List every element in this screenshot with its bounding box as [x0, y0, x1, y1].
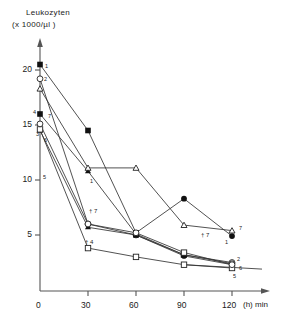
ytick-label-5: 5	[12, 229, 32, 239]
series-lines-group	[40, 65, 262, 270]
series-label-7-end: 7	[239, 225, 242, 231]
ytick-label-20: 20	[12, 64, 32, 74]
xtick-label-30: 30	[81, 300, 90, 310]
series-label-2-end: 2	[237, 256, 240, 262]
series-label-5-end: 5	[233, 273, 236, 279]
series-line-5	[40, 129, 262, 269]
ytick-label-10: 10	[12, 174, 32, 184]
series-label-6-end: 6	[239, 265, 242, 271]
series-label-4-start: 4	[33, 109, 36, 115]
series-label-5-start: 5	[43, 174, 46, 180]
series-label-6-start: 6	[44, 137, 47, 143]
series-label-7-start: 7	[48, 113, 51, 119]
xtick-label-60: 60	[129, 300, 138, 310]
ytick-label-15: 15	[12, 119, 32, 129]
series-label-2-start: 2	[44, 76, 47, 82]
series-label-3-start: 3	[36, 131, 39, 137]
plot-canvas	[0, 0, 283, 336]
xtick-label-90: 90	[177, 300, 186, 310]
xaxis-unit-label: (h) min	[243, 300, 268, 309]
series-line-6	[40, 124, 232, 265]
annotation-dagger-7-right: † 7	[201, 232, 209, 238]
series-line-7	[40, 89, 232, 231]
series-line-3	[40, 131, 232, 265]
series-label-1-end: 1	[225, 239, 228, 245]
series-label-1-mid: 1	[90, 178, 93, 184]
axes-group	[35, 38, 270, 296]
series-label-1-start: 1	[45, 63, 48, 69]
leukocyte-decay-chart: Leukozyten (x 1000/µl )	[0, 0, 283, 336]
annotation-dagger-4: † 4	[85, 239, 93, 245]
xtick-label-0: 0	[36, 300, 41, 310]
series-line-1	[40, 65, 232, 237]
series-markers-group	[37, 62, 235, 271]
series-line-5b	[184, 265, 232, 268]
xtick-label-120: 120	[222, 300, 236, 310]
annotation-dagger-7-mid: † 7	[89, 208, 97, 214]
